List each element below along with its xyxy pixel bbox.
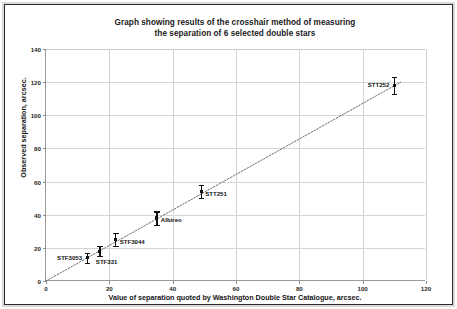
error-bar-cap <box>199 185 205 186</box>
y-tick-mark <box>43 182 46 183</box>
y-tick-mark <box>43 215 46 216</box>
data-point-label: STT251 <box>205 190 227 197</box>
x-tick-label: 40 <box>161 285 185 292</box>
y-tick-mark <box>43 281 46 282</box>
data-point-marker <box>98 250 101 253</box>
error-bar-cap <box>97 246 103 247</box>
error-bar-cap <box>113 233 119 234</box>
y-tick-mark <box>43 248 46 249</box>
error-bar-cap <box>392 94 398 95</box>
y-tick-mark <box>43 82 46 83</box>
error-bar-cap <box>85 263 91 264</box>
x-tick-mark <box>363 281 364 284</box>
data-point-marker <box>393 84 396 87</box>
data-point-label: STF3053 <box>57 254 82 261</box>
data-point-marker <box>86 256 89 259</box>
x-tick-mark <box>236 281 237 284</box>
x-tick-mark <box>426 281 427 284</box>
data-point-label: STF331 <box>96 258 118 265</box>
error-bar-cap <box>154 225 160 226</box>
y-tick-mark <box>43 115 46 116</box>
x-tick-label: 60 <box>224 285 248 292</box>
data-point-marker <box>155 216 158 219</box>
data-point-label: Albireo <box>161 216 182 223</box>
error-bar-cap <box>154 211 160 212</box>
plot-area: STF3053STF331STF3044AlbireoSTT251STT252 … <box>45 49 425 281</box>
chart-title: Graph showing results of the crosshair m… <box>65 17 405 39</box>
chart-frame: Graph showing results of the crosshair m… <box>4 4 453 305</box>
chart-title-line-2: the separation of 6 selected double star… <box>65 28 405 39</box>
y-tick-label: 40 <box>15 212 41 219</box>
x-tick-label: 20 <box>97 285 121 292</box>
error-bar-cap <box>392 77 398 78</box>
chart-page: Graph showing results of the crosshair m… <box>0 0 457 309</box>
x-tick-label: 100 <box>351 285 375 292</box>
error-bar-cap <box>113 246 119 247</box>
y-axis-title: Observed separation, arcsec. <box>19 48 28 208</box>
gridline-vertical <box>426 49 427 280</box>
chart-title-line-1: Graph showing results of the crosshair m… <box>65 17 405 28</box>
error-bar-cap <box>199 198 205 199</box>
x-tick-mark <box>109 281 110 284</box>
y-tick-label: 0 <box>15 278 41 285</box>
error-bar-cap <box>85 253 91 254</box>
x-tick-label: 120 <box>414 285 438 292</box>
x-axis-title: Value of separation quoted by Washington… <box>45 293 425 302</box>
error-bar-cap <box>97 256 103 257</box>
x-tick-mark <box>299 281 300 284</box>
data-point-label: STF3044 <box>120 238 145 245</box>
y-tick-mark <box>43 148 46 149</box>
x-tick-label: 80 <box>287 285 311 292</box>
data-point-label: STT252 <box>368 81 390 88</box>
data-point-marker <box>200 190 203 193</box>
x-tick-mark <box>46 281 47 284</box>
y-tick-mark <box>43 49 46 50</box>
x-tick-mark <box>173 281 174 284</box>
x-tick-label: 0 <box>34 285 58 292</box>
y-tick-label: 20 <box>15 245 41 252</box>
data-point-marker <box>114 238 117 241</box>
